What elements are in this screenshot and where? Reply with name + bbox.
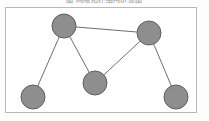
scanned-figure-page: 图 网络拓扑结构示意图 xyxy=(0,0,209,121)
graph-node-n2 xyxy=(137,21,161,45)
graph-node-n4 xyxy=(21,85,45,109)
graph-node-n3 xyxy=(83,71,107,95)
graph-node-n1 xyxy=(52,14,76,38)
nodes-layer xyxy=(21,14,188,109)
graph-canvas xyxy=(0,0,209,121)
graph-edge xyxy=(64,26,149,33)
graph-node-n5 xyxy=(164,85,188,109)
